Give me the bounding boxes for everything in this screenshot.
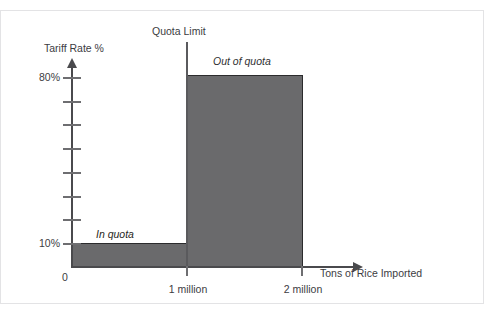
y-tick-20 xyxy=(63,219,81,221)
y-tick-60 xyxy=(63,124,81,126)
quota-limit-label: Quota Limit xyxy=(152,25,206,38)
out-of-quota-label: Out of quota xyxy=(213,55,271,68)
y-tick-40 xyxy=(63,172,81,174)
y-tick-label-80: 80% xyxy=(24,71,60,83)
figure-border-left xyxy=(0,10,1,304)
x-tick-2-million xyxy=(301,266,303,276)
y-tick-10 xyxy=(63,243,81,245)
x-tick-label-1-million: 1 million xyxy=(155,283,221,295)
tariff-rate-quota-chart: Tariff Rate % Tons of Rice Imported Quot… xyxy=(0,0,484,316)
y-tick-80 xyxy=(63,77,81,79)
bar-in-quota xyxy=(72,243,188,268)
figure-border-top xyxy=(0,10,484,11)
x-axis-title: Tons of Rice Imported xyxy=(320,267,422,280)
x-tick-label-origin: 0 xyxy=(62,271,80,283)
figure-border-bottom xyxy=(0,303,484,304)
y-axis-line xyxy=(71,66,73,268)
y-tick-70 xyxy=(63,101,81,103)
y-axis-arrow-icon xyxy=(67,58,77,68)
y-tick-label-10: 10% xyxy=(24,237,60,249)
x-tick-label-2-million: 2 million xyxy=(270,283,336,295)
y-tick-30 xyxy=(63,196,81,198)
y-tick-50 xyxy=(63,148,81,150)
quota-limit-line xyxy=(186,42,188,268)
y-axis-title: Tariff Rate % xyxy=(44,42,104,55)
in-quota-label: In quota xyxy=(96,228,134,241)
bar-out-of-quota xyxy=(187,75,303,268)
x-axis-line xyxy=(71,266,355,268)
x-tick-1-million xyxy=(186,266,188,276)
